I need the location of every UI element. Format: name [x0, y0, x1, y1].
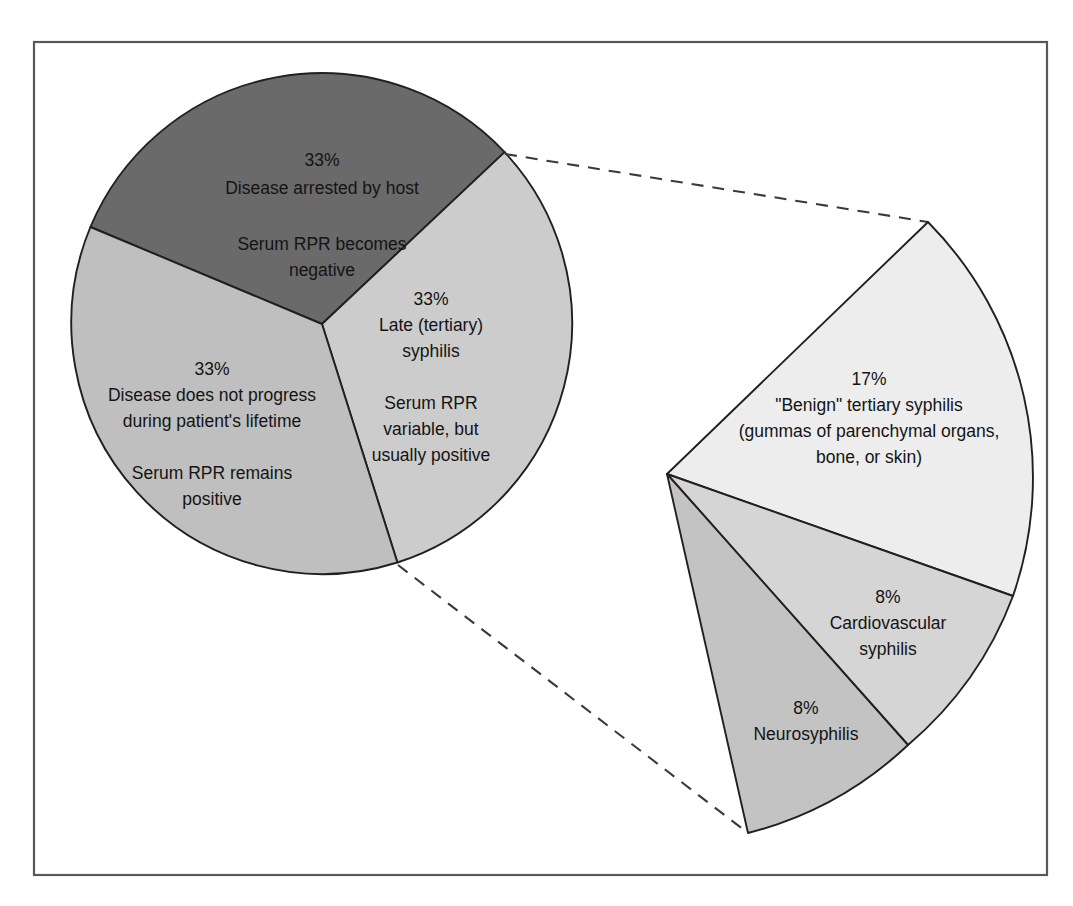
- main-pie: 33% Disease arrested by host Serum RPR b…: [71, 73, 572, 574]
- neuro-percent: 8%: [793, 698, 818, 718]
- noprog-line-1: Disease does not progress: [108, 385, 316, 405]
- cardio-line-1: Cardiovascular: [830, 613, 947, 633]
- benign-line-2: (gummas of parenchymal organs,: [739, 421, 1000, 441]
- noprog-percent: 33%: [194, 359, 229, 379]
- late-percent: 33%: [413, 289, 448, 309]
- late-line-3: Serum RPR: [384, 393, 477, 413]
- noprog-line-2: during patient's lifetime: [123, 411, 301, 431]
- leader-line-upper: [505, 154, 928, 222]
- benign-percent: 17%: [851, 369, 886, 389]
- late-line-5: usually positive: [372, 445, 491, 465]
- cardio-line-2: syphilis: [859, 639, 917, 659]
- arrested-line-2: Serum RPR becomes: [237, 234, 406, 254]
- figure-canvas: 33% Disease arrested by host Serum RPR b…: [0, 0, 1073, 906]
- benign-line-3: bone, or skin): [816, 447, 922, 467]
- arrested-percent: 33%: [304, 150, 339, 170]
- pie-chart-diagram: 33% Disease arrested by host Serum RPR b…: [0, 0, 1073, 906]
- detail-pie: 17% "Benign" tertiary syphilis (gummas o…: [667, 222, 1033, 833]
- benign-line-1: "Benign" tertiary syphilis: [775, 395, 963, 415]
- leader-line-lower: [398, 565, 748, 833]
- arrested-line-3: negative: [289, 260, 355, 280]
- noprog-line-3: Serum RPR remains: [132, 463, 293, 483]
- late-line-1: Late (tertiary): [379, 315, 483, 335]
- cardio-percent: 8%: [875, 587, 900, 607]
- late-line-4: variable, but: [383, 419, 478, 439]
- noprog-line-4: positive: [182, 489, 241, 509]
- late-line-2: syphilis: [402, 341, 460, 361]
- neuro-line-1: Neurosyphilis: [753, 724, 858, 744]
- arrested-line-1: Disease arrested by host: [225, 178, 419, 198]
